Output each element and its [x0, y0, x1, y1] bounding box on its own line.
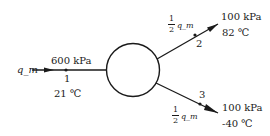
outlet-bottom-state-number: 3 [199, 90, 205, 100]
outlet-top-state-number: 2 [196, 39, 202, 49]
state-point-1 [64, 68, 67, 71]
outlet-bottom-pressure: 100 kPa [222, 103, 263, 113]
outlet-top-fraction: 1 2 [168, 15, 175, 34]
fraction-denominator: 2 [173, 117, 178, 125]
outlet-bottom-arrow-icon [204, 104, 218, 113]
outlet-top-pressure: 100 kPa [221, 12, 262, 22]
outlet-top-flow-label: q_m [177, 22, 194, 30]
separator-device [107, 44, 160, 97]
fraction-numerator: 1 [173, 106, 178, 114]
inlet-temperature: 21 ℃ [54, 89, 81, 99]
inlet-arrow-icon [44, 68, 54, 73]
outlet-bottom-temperature: -40 ℃ [222, 119, 252, 129]
inlet-pressure: 600 kPa [51, 56, 92, 66]
state-point-3 [198, 102, 201, 105]
outlet-top-arrow-icon [207, 24, 218, 32]
outlet-bottom-flow-label: q_m [181, 113, 198, 121]
outlet-bottom-fraction: 1 2 [172, 106, 179, 125]
inlet-flow-label: q_m [17, 65, 38, 75]
state-point-2 [193, 33, 196, 36]
inlet-state-number: 1 [64, 74, 70, 84]
fraction-denominator: 2 [169, 26, 174, 34]
fraction-numerator: 1 [169, 15, 174, 23]
outlet-top-temperature: 82 ℃ [222, 28, 249, 38]
